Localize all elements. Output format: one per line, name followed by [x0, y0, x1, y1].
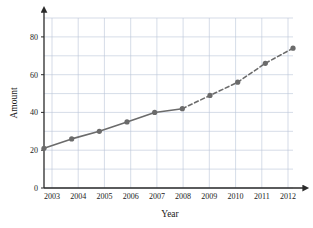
data-point-2006	[124, 119, 129, 124]
y-tick-label-40: 40	[30, 108, 38, 117]
plot-background	[44, 18, 293, 188]
x-tick-label-2009: 2009	[201, 192, 217, 201]
data-point-2003	[41, 146, 46, 151]
data-point-2009	[207, 93, 212, 98]
x-tick-label-2006: 2006	[123, 192, 139, 201]
data-point-2005	[97, 129, 102, 134]
data-point-2012	[290, 46, 295, 51]
data-point-2011	[263, 61, 268, 66]
x-tick-label-2012: 2012	[280, 192, 296, 201]
y-axis-title: Amount	[9, 87, 19, 119]
y-tick-label-20: 20	[30, 146, 38, 155]
x-tick-label-2011: 2011	[254, 192, 270, 201]
data-point-2007	[152, 110, 157, 115]
x-tick-label-2004: 2004	[70, 192, 86, 201]
data-point-2008	[180, 106, 185, 111]
x-tick-label-2003: 2003	[44, 192, 60, 201]
y-tick-label-60: 60	[30, 71, 38, 80]
y-tick-label-0: 0	[34, 184, 38, 193]
x-tick-label-2010: 2010	[228, 192, 244, 201]
line-chart-figure: 0 20 40 60 80 2003 2004 2005 2006 2007 2…	[0, 0, 313, 228]
y-tick-label-80: 80	[30, 33, 38, 42]
x-tick-label-2007: 2007	[149, 192, 165, 201]
x-tick-label-2008: 2008	[175, 192, 191, 201]
x-axis-title: Year	[161, 209, 179, 219]
chart-canvas: 0 20 40 60 80 2003 2004 2005 2006 2007 2…	[0, 0, 313, 228]
data-point-2010	[235, 80, 240, 85]
data-point-2004	[69, 136, 74, 141]
x-tick-label-2005: 2005	[96, 192, 112, 201]
